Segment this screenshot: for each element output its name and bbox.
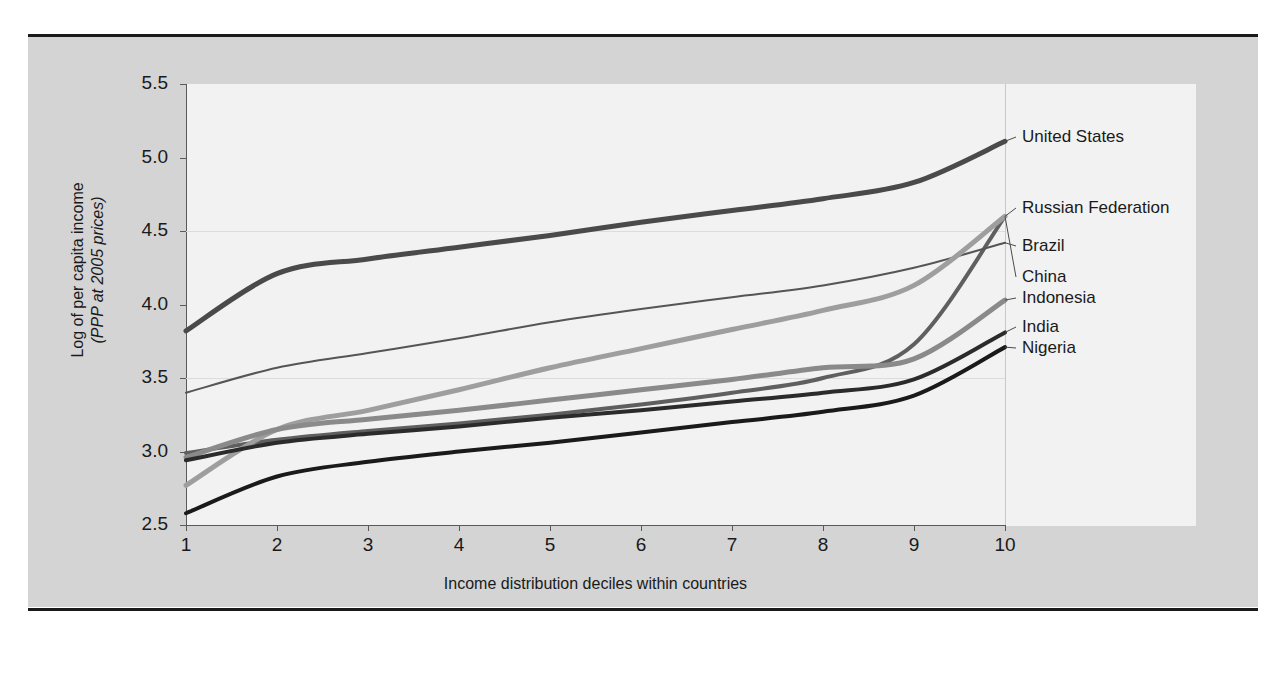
leader-line [1005, 327, 1016, 332]
leader-line [1005, 208, 1016, 216]
leader-line [1005, 216, 1016, 277]
figure-page: Log of per capita income (PPP at 2005 pr… [0, 0, 1286, 673]
label-leader-lines [0, 0, 1286, 673]
leader-line [1005, 298, 1016, 300]
leader-line [1005, 137, 1016, 141]
leader-line [1005, 347, 1016, 348]
